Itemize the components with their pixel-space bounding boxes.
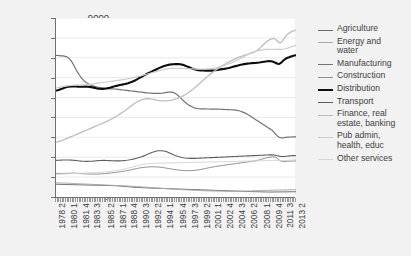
x-tick-label: 1981 4 bbox=[82, 203, 90, 228]
legend-item-label: Construction bbox=[337, 71, 385, 81]
legend-swatch-line-icon bbox=[318, 115, 333, 116]
x-tick-mark bbox=[233, 198, 234, 202]
series-line bbox=[56, 157, 296, 174]
x-tick-label: 1980 1 bbox=[70, 203, 78, 228]
x-tick-mark bbox=[162, 198, 163, 202]
x-tick-mark bbox=[92, 198, 93, 202]
x-tick-mark bbox=[283, 198, 284, 202]
legend-item-label: Energy and water bbox=[337, 37, 381, 56]
x-tick-mark bbox=[114, 198, 115, 202]
legend-item[interactable]: Other services bbox=[318, 154, 411, 164]
x-tick-mark bbox=[89, 198, 90, 202]
legend-swatch-line-icon bbox=[318, 89, 333, 91]
x-tick-mark bbox=[146, 198, 147, 202]
x-tick-mark bbox=[287, 198, 288, 202]
x-tick-mark bbox=[268, 198, 269, 202]
x-tick-mark bbox=[266, 198, 267, 202]
x-tick-mark bbox=[60, 198, 61, 202]
legend-swatch-line-icon bbox=[318, 42, 333, 43]
x-tick-mark bbox=[196, 198, 197, 202]
x-tick-mark bbox=[67, 198, 68, 202]
legend-item[interactable]: Finance, real estate, banking bbox=[318, 109, 411, 128]
legend-item[interactable]: Construction bbox=[318, 71, 411, 81]
x-tick-mark bbox=[151, 198, 152, 202]
legend-item-label: Finance, real estate, banking bbox=[337, 109, 395, 128]
x-tick-mark bbox=[246, 198, 247, 202]
legend-item[interactable]: Energy and water bbox=[318, 37, 411, 56]
x-tick-mark bbox=[199, 198, 200, 202]
x-tick-mark bbox=[68, 198, 69, 202]
x-tick-mark bbox=[131, 198, 132, 202]
legend-item[interactable]: Agriculture bbox=[318, 24, 411, 34]
x-tick-mark bbox=[256, 198, 257, 202]
x-tick-mark bbox=[186, 198, 187, 202]
x-tick-mark bbox=[84, 198, 85, 202]
x-tick-mark bbox=[77, 198, 78, 202]
legend-item[interactable]: Distribution bbox=[318, 84, 411, 94]
x-tick-mark bbox=[62, 198, 63, 202]
x-tick-mark bbox=[97, 198, 98, 202]
x-tick-mark bbox=[105, 198, 106, 202]
x-tick-mark bbox=[122, 198, 123, 202]
x-tick-mark bbox=[278, 198, 279, 202]
x-tick-mark bbox=[290, 198, 291, 202]
x-tick-mark bbox=[206, 198, 207, 202]
x-tick-mark bbox=[211, 198, 212, 202]
legend-swatch-line-icon bbox=[318, 30, 333, 31]
x-tick-mark bbox=[63, 198, 64, 202]
x-tick-mark bbox=[115, 198, 116, 202]
x-tick-mark bbox=[261, 198, 262, 202]
x-tick-label: 2002 4 bbox=[226, 203, 234, 228]
legend-item[interactable]: Transport bbox=[318, 97, 411, 107]
x-tick-label: 1988 4 bbox=[130, 203, 138, 228]
x-tick-mark bbox=[295, 198, 296, 202]
x-tick-mark bbox=[280, 198, 281, 202]
x-tick-mark bbox=[214, 198, 215, 202]
x-tick-label: 2004 3 bbox=[238, 203, 246, 228]
x-tick-mark bbox=[225, 198, 226, 202]
x-tick-label: 2011 3 bbox=[286, 203, 294, 228]
x-tick-mark bbox=[179, 198, 180, 202]
x-tick-mark bbox=[194, 198, 195, 202]
x-tick-mark bbox=[263, 198, 264, 202]
x-tick-mark bbox=[240, 198, 241, 202]
x-tick-mark bbox=[228, 198, 229, 202]
x-tick-mark bbox=[208, 198, 209, 202]
x-tick-label: 1978 2 bbox=[58, 203, 66, 228]
x-tick-mark bbox=[238, 198, 239, 202]
x-tick-mark bbox=[134, 198, 135, 202]
series-lines bbox=[56, 18, 296, 197]
legend-item-label: Other services bbox=[337, 154, 392, 164]
x-tick-mark bbox=[161, 198, 162, 202]
x-tick-mark bbox=[288, 198, 289, 202]
x-tick-mark bbox=[236, 198, 237, 202]
legend-item-label: Distribution bbox=[337, 84, 380, 94]
x-tick-mark bbox=[176, 198, 177, 202]
x-tick-mark bbox=[282, 198, 283, 202]
x-tick-mark bbox=[255, 198, 256, 202]
x-tick-mark bbox=[147, 198, 148, 202]
legend-item-label: Pub admin, health, educ bbox=[337, 131, 384, 150]
x-tick-mark bbox=[265, 198, 266, 202]
x-tick-mark bbox=[231, 198, 232, 202]
legend-item[interactable]: Pub admin, health, educ bbox=[318, 131, 411, 150]
legend-item[interactable]: Manufacturing bbox=[318, 59, 411, 69]
x-tick-mark bbox=[144, 198, 145, 202]
x-tick-label: 2006 2 bbox=[250, 203, 258, 228]
x-tick-mark bbox=[142, 198, 143, 202]
x-tick-mark bbox=[149, 198, 150, 202]
x-tick-mark bbox=[235, 198, 236, 202]
x-tick-mark bbox=[82, 198, 83, 202]
legend-swatch-line-icon bbox=[318, 137, 333, 138]
x-tick-mark bbox=[109, 198, 110, 202]
x-tick-mark bbox=[292, 198, 293, 202]
series-line bbox=[56, 183, 296, 191]
x-tick-label: 1990 3 bbox=[142, 203, 150, 228]
x-tick-mark bbox=[110, 198, 111, 202]
x-tick-mark bbox=[172, 198, 173, 202]
x-tick-mark bbox=[99, 198, 100, 202]
x-tick-mark bbox=[90, 198, 91, 202]
x-tick-mark bbox=[137, 198, 138, 202]
x-tick-mark bbox=[141, 198, 142, 202]
x-tick-mark bbox=[79, 198, 80, 202]
